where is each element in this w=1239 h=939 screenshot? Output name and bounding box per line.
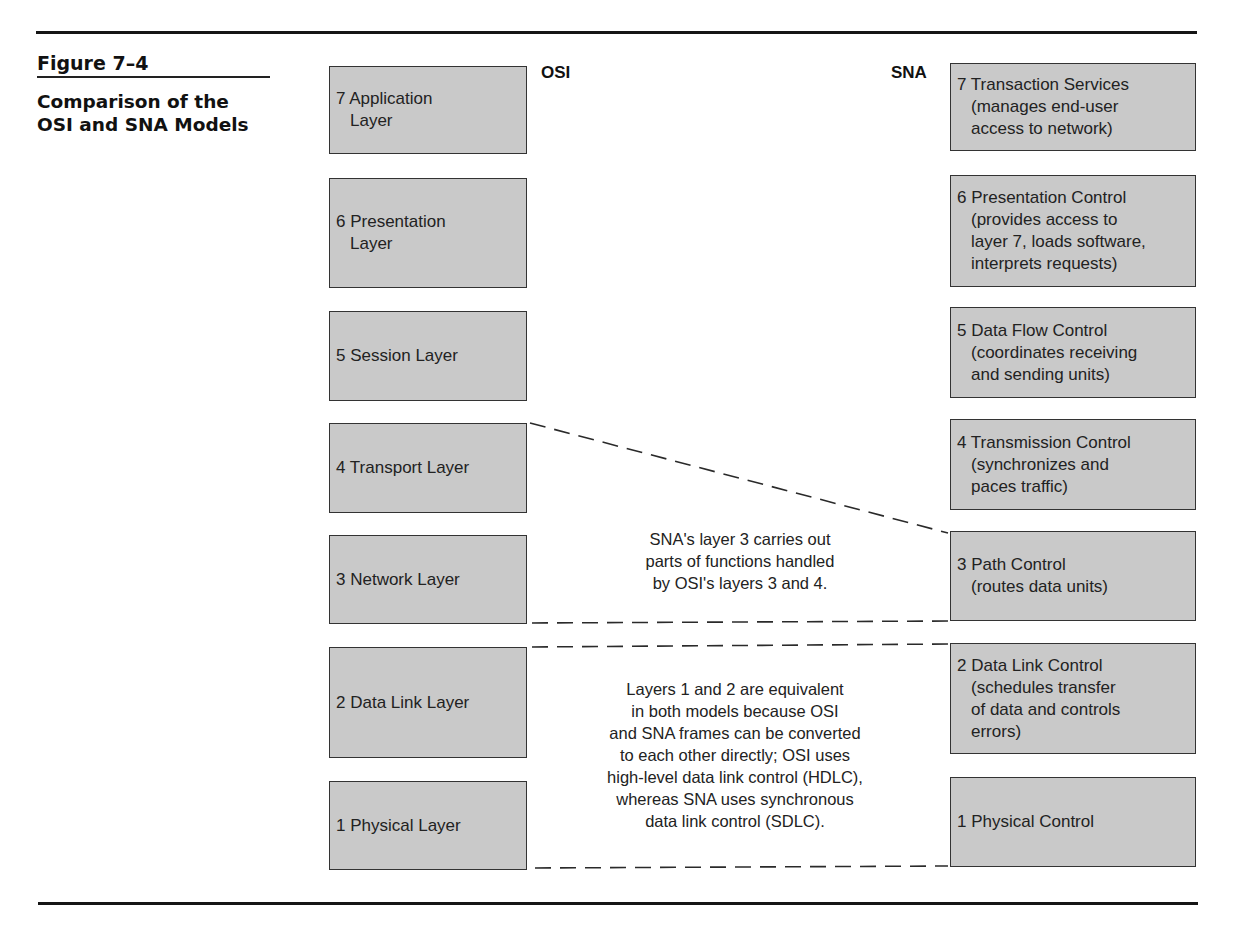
osi1-bottom-line [535, 866, 948, 868]
osi4-to-sna3-line [530, 423, 948, 533]
osi2-top-line [532, 644, 948, 647]
layers12-note: Layers 1 and 2 are equivalent in both mo… [545, 678, 925, 832]
layer3-note: SNA's layer 3 carries out parts of funct… [580, 528, 900, 594]
osi3-bottom-line [532, 621, 948, 623]
